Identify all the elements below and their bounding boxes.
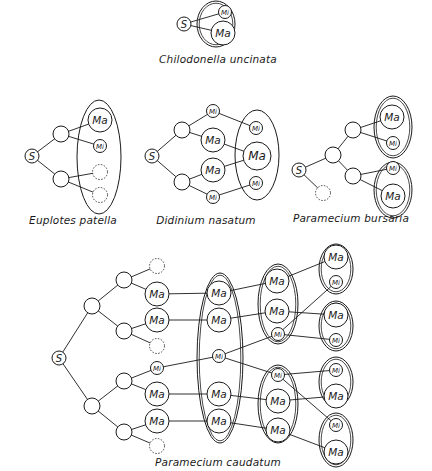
node-label: Ma bbox=[211, 314, 227, 326]
division-node bbox=[325, 147, 341, 163]
micronucleus-node: Mi bbox=[330, 276, 343, 289]
node-label: Ma bbox=[385, 190, 401, 202]
node-label: Ma bbox=[215, 27, 231, 39]
start-node: S bbox=[292, 163, 306, 177]
macronucleus-node: Ma bbox=[145, 382, 169, 406]
caption-didinium: Didinium nasatum bbox=[156, 214, 256, 226]
node-label: Ma bbox=[384, 111, 400, 123]
caption-euplotes: Euplotes patella bbox=[29, 214, 117, 226]
start-node: S bbox=[25, 149, 39, 163]
micronucleus-node: Mi bbox=[250, 122, 263, 135]
micronucleus-node: Mi bbox=[94, 140, 107, 153]
macronucleus-node: Ma bbox=[265, 299, 289, 323]
degenerated-nucleus-node bbox=[150, 259, 165, 274]
node-label: Ma bbox=[269, 275, 285, 287]
node-label: Mi bbox=[221, 9, 229, 17]
node-label: Ma bbox=[149, 314, 165, 326]
division-node bbox=[53, 171, 69, 187]
diagram-bursaria: SMaMiMiMa bbox=[292, 96, 412, 218]
micronucleus-node: Mi bbox=[151, 362, 164, 375]
node-label: Mi bbox=[209, 108, 217, 116]
macronucleus-node: Ma bbox=[380, 105, 404, 129]
node-label: Mi bbox=[252, 125, 260, 133]
node-label: Mi bbox=[215, 353, 223, 361]
macronucleus-node: Ma bbox=[324, 384, 348, 408]
node-label: Mi bbox=[274, 331, 282, 339]
micronucleus-node: Mi bbox=[207, 105, 220, 118]
division-node bbox=[174, 174, 190, 190]
micronucleus-node: Mi bbox=[213, 350, 226, 363]
micronucleus-node: Mi bbox=[330, 364, 343, 377]
node-label: Mi bbox=[389, 165, 397, 173]
macronucleus-node: Ma bbox=[88, 108, 112, 132]
macronucleus-node: Ma bbox=[201, 158, 225, 182]
node-label: Mi bbox=[96, 143, 104, 151]
diagram-euplotes: SMaMi bbox=[25, 100, 121, 214]
node-label: Mi bbox=[252, 180, 260, 188]
division-node bbox=[116, 323, 132, 339]
degenerated-nucleus-node bbox=[150, 339, 165, 354]
node-label: Ma bbox=[270, 395, 286, 407]
node-label: Mi bbox=[332, 279, 340, 287]
macronucleus-node: Ma bbox=[207, 308, 231, 332]
caption-caudatum: Paramecium caudatum bbox=[155, 456, 281, 468]
degenerated-nucleus-node bbox=[150, 439, 165, 454]
node-label: Mi bbox=[153, 365, 161, 373]
node-label: Mi bbox=[274, 372, 282, 380]
macronucleus-node: Ma bbox=[207, 281, 231, 305]
lineage-edge bbox=[59, 358, 92, 406]
node-label: Ma bbox=[269, 305, 285, 317]
lineage-edge bbox=[278, 370, 336, 375]
division-node bbox=[116, 373, 132, 389]
macronucleus-node: Ma bbox=[324, 303, 348, 327]
node-label: Ma bbox=[92, 114, 108, 126]
degenerated-nucleus-node bbox=[93, 188, 108, 203]
macronucleus-node: Ma bbox=[201, 128, 225, 152]
node-label: Ma bbox=[149, 388, 165, 400]
macronucleus-node: Ma bbox=[207, 409, 231, 433]
division-node bbox=[345, 168, 361, 184]
micronucleus-node: Mi bbox=[250, 177, 263, 190]
macronucleus-node: Ma bbox=[243, 142, 271, 170]
micronucleus-node: Mi bbox=[272, 328, 285, 341]
node-label: Ma bbox=[211, 388, 227, 400]
macronucleus-node: Ma bbox=[266, 389, 290, 413]
division-node bbox=[345, 122, 361, 138]
node-label: Mi bbox=[332, 367, 340, 375]
node-label: Mi bbox=[332, 337, 340, 345]
node-label: Ma bbox=[248, 149, 266, 163]
node-label: Ma bbox=[328, 309, 344, 321]
division-node bbox=[116, 272, 132, 288]
macronucleus-node: Ma bbox=[265, 269, 289, 293]
node-label: Ma bbox=[205, 134, 221, 146]
division-node bbox=[116, 424, 132, 440]
division-node bbox=[84, 298, 100, 314]
macronucleus-node: Ma bbox=[145, 409, 169, 433]
node-label: Ma bbox=[205, 164, 221, 176]
micronucleus-node: Mi bbox=[219, 6, 232, 19]
node-label: Ma bbox=[270, 424, 286, 436]
micronucleus-node: Mi bbox=[330, 334, 343, 347]
degenerated-nucleus-node bbox=[316, 186, 331, 201]
division-node bbox=[174, 122, 190, 138]
node-label: Ma bbox=[211, 287, 227, 299]
node-label: Ma bbox=[328, 390, 344, 402]
macronucleus-node: Ma bbox=[324, 245, 348, 269]
nuclear-division-diagram: SMiMaSMaMiSMiMaMaMiMiMaMiSMaMiMiMaSMaMaM… bbox=[0, 0, 432, 471]
macronucleus-node: Ma bbox=[211, 21, 235, 45]
division-node bbox=[84, 398, 100, 414]
macronucleus-node: Ma bbox=[381, 184, 405, 208]
lineage-edge bbox=[219, 356, 278, 375]
micronucleus-node: Mi bbox=[387, 162, 400, 175]
macronucleus-node: Ma bbox=[324, 440, 348, 464]
macronucleus-node: Ma bbox=[145, 282, 169, 306]
diagram-didinium: SMiMaMaMiMiMaMi bbox=[145, 105, 279, 204]
node-label: S bbox=[149, 151, 156, 162]
node-label: Mi bbox=[389, 140, 397, 148]
lineage-edge bbox=[157, 356, 219, 368]
macronucleus-node: Ma bbox=[207, 382, 231, 406]
lineage-edge bbox=[219, 334, 278, 356]
node-label: S bbox=[29, 151, 36, 162]
start-node: S bbox=[52, 351, 66, 365]
node-label: Ma bbox=[149, 288, 165, 300]
